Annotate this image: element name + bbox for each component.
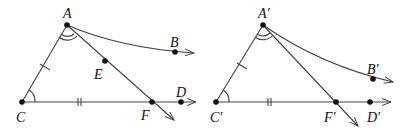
ray-a-prime-f-prime xyxy=(263,25,358,126)
point-b xyxy=(172,49,178,55)
figure-left: A B C D E F xyxy=(16,6,196,125)
label-b-prime: B′ xyxy=(367,62,380,77)
label-c: C xyxy=(16,110,26,125)
angle-arc-c xyxy=(29,90,35,102)
label-a: A xyxy=(62,6,72,21)
label-d-prime: D′ xyxy=(366,110,381,125)
label-a-prime: A′ xyxy=(257,6,271,21)
figure-right: A′ B′ C′ D′ F′ xyxy=(210,6,393,126)
point-c-prime xyxy=(213,99,219,105)
geometry-diagram: A B C D E F A′ B′ C′ D′ F′ xyxy=(0,0,411,134)
point-a-prime xyxy=(260,22,266,28)
angle-arc-c-prime xyxy=(223,90,229,102)
point-e xyxy=(102,58,108,64)
label-e: E xyxy=(93,67,103,82)
angle-arc-a-prime-inner xyxy=(257,33,270,36)
point-d xyxy=(178,99,184,105)
label-c-prime: C′ xyxy=(210,110,223,125)
point-c xyxy=(19,99,25,105)
point-d-prime xyxy=(367,99,373,105)
point-f xyxy=(149,99,155,105)
label-f: F xyxy=(140,108,150,123)
angle-arc-a-inner xyxy=(61,34,74,36)
point-f-prime xyxy=(333,99,339,105)
label-d: D xyxy=(175,85,186,100)
label-b: B xyxy=(170,35,179,50)
point-a xyxy=(64,22,70,28)
point-b-prime xyxy=(370,76,376,82)
ray-ae xyxy=(67,25,174,120)
label-f-prime: F′ xyxy=(323,110,337,125)
